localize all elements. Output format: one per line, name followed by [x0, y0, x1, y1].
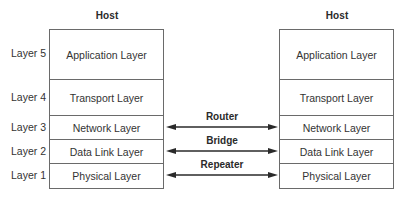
- right-data-link-layer: Data Link Layer: [280, 140, 393, 164]
- left-application-layer: Application Layer: [50, 30, 163, 80]
- left-host-title: Host: [49, 10, 165, 21]
- repeater-label: Repeater: [165, 159, 279, 170]
- left-network-layer: Network Layer: [50, 116, 163, 140]
- double-arrow-icon: [165, 171, 279, 179]
- left-physical-layer: Physical Layer: [50, 164, 163, 188]
- left-transport-layer: Transport Layer: [50, 80, 163, 116]
- right-host-title: Host: [279, 10, 395, 21]
- layer-number-3: Layer 3: [0, 121, 46, 133]
- bridge-label: Bridge: [165, 135, 279, 146]
- right-application-layer: Application Layer: [280, 30, 393, 80]
- left-data-link-layer: Data Link Layer: [50, 140, 163, 164]
- right-transport-layer: Transport Layer: [280, 80, 393, 116]
- layer-number-5: Layer 5: [0, 47, 46, 59]
- layer-number-4: Layer 4: [0, 91, 46, 103]
- right-physical-layer: Physical Layer: [280, 164, 393, 188]
- layer-number-1: Layer 1: [0, 169, 46, 181]
- router-label: Router: [165, 111, 279, 122]
- right-host-stack: Application Layer Transport Layer Networ…: [279, 29, 394, 189]
- left-host-stack: Application Layer Transport Layer Networ…: [49, 29, 164, 189]
- right-network-layer: Network Layer: [280, 116, 393, 140]
- double-arrow-icon: [165, 123, 279, 131]
- layer-number-2: Layer 2: [0, 145, 46, 157]
- double-arrow-icon: [165, 147, 279, 155]
